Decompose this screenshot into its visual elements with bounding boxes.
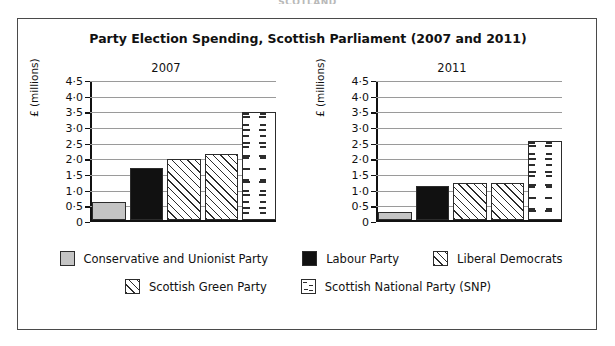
y-axis-label: £ (millions)	[28, 58, 40, 117]
y-tick	[85, 159, 90, 160]
y-tick	[85, 128, 90, 129]
y-tick	[85, 112, 90, 113]
bar-libdem-2007	[167, 159, 201, 221]
legend-item-labour: Labour Party	[302, 251, 399, 266]
y-tick	[85, 191, 90, 192]
legend-swatch-green-icon	[125, 279, 140, 294]
y-tick-label: 4·5	[352, 75, 370, 88]
y-tick	[85, 206, 90, 207]
y-tick-label: 0	[362, 216, 369, 229]
legend-row-2: Scottish Green Party Scottish National P…	[18, 279, 598, 294]
chart-panel-2007: 2007 £ (millions)	[32, 63, 300, 238]
bar-libdem-2011	[453, 183, 487, 221]
y-tick-label: 1·0	[66, 184, 84, 197]
chart-title: Party Election Spending, Scottish Parlia…	[18, 31, 598, 46]
y-tick-label: 1·5	[352, 169, 370, 182]
bar-snp-2007	[242, 112, 276, 220]
y-tick	[371, 144, 376, 145]
bar-conservative-2011	[378, 212, 412, 221]
y-tick	[371, 206, 376, 207]
y-tick	[371, 159, 376, 160]
chart-page: SCOTLAND Party Election Spending, Scotti…	[0, 0, 615, 346]
y-tick-label: 3·0	[66, 122, 84, 135]
y-tick-label: 2·5	[352, 137, 370, 150]
panel-year-label: 2011	[318, 61, 586, 75]
bar-conservative-2007	[92, 202, 126, 221]
bar-group-2011	[378, 81, 562, 220]
y-tick-label: 0·5	[66, 200, 84, 213]
legend-label: Scottish National Party (SNP)	[325, 280, 491, 294]
chart-frame: Party Election Spending, Scottish Parlia…	[17, 18, 597, 330]
bar-group-2007	[92, 81, 276, 220]
y-tick-label: 2·0	[352, 153, 370, 166]
legend-item-snp: Scottish National Party (SNP)	[301, 279, 491, 294]
y-tick-label: 4·5	[66, 75, 84, 88]
y-tick-label: 1·0	[352, 184, 370, 197]
x-axis-line	[90, 220, 276, 222]
legend-row-1: Conservative and Unionist Party Labour P…	[18, 251, 598, 266]
legend-label: Conservative and Unionist Party	[84, 252, 269, 266]
y-tick	[371, 97, 376, 98]
y-tick-label: 2·0	[66, 153, 84, 166]
bar-snp-2011	[528, 141, 562, 221]
legend-label: Labour Party	[326, 252, 399, 266]
y-tick	[371, 128, 376, 129]
y-tick	[371, 191, 376, 192]
y-tick-label: 4·0	[352, 90, 370, 103]
plot-area-2011: 4·5 4·0 3·5 3·0 2·5 2·0 1·5 1·0 0·5 0	[376, 81, 562, 222]
legend-swatch-labour-icon	[302, 251, 317, 266]
legend-swatch-conservative-icon	[60, 251, 75, 266]
y-tick-label: 3·5	[66, 106, 84, 119]
chart-legend: Conservative and Unionist Party Labour P…	[18, 251, 598, 307]
bar-labour-2011	[416, 186, 450, 221]
legend-label: Scottish Green Party	[149, 280, 267, 294]
y-tick	[371, 112, 376, 113]
y-tick	[371, 81, 376, 82]
bar-labour-2007	[130, 168, 164, 221]
y-tick-label: 1·5	[66, 169, 84, 182]
y-tick	[85, 222, 90, 223]
panel-year-label: 2007	[32, 61, 300, 75]
page-header-stub: SCOTLAND	[0, 0, 615, 4]
plot-area-2007: 4·5 4·0 3·5 3·0 2·5 2·0 1·5 1·0 0·5 0	[90, 81, 276, 222]
y-tick	[371, 175, 376, 176]
y-tick	[85, 144, 90, 145]
legend-swatch-snp-icon	[301, 279, 316, 294]
y-tick-label: 3·0	[352, 122, 370, 135]
legend-item-libdem: Liberal Democrats	[433, 251, 562, 266]
legend-swatch-libdem-icon	[433, 251, 448, 266]
y-tick-label: 0·5	[352, 200, 370, 213]
legend-item-green: Scottish Green Party	[125, 279, 267, 294]
y-tick	[371, 222, 376, 223]
y-tick-label: 0	[76, 216, 83, 229]
y-tick-label: 4·0	[66, 90, 84, 103]
y-tick-label: 2·5	[66, 137, 84, 150]
x-axis-line	[376, 220, 562, 222]
y-tick-label: 3·5	[352, 106, 370, 119]
y-tick	[85, 97, 90, 98]
legend-item-conservative: Conservative and Unionist Party	[60, 251, 269, 266]
y-tick	[85, 81, 90, 82]
y-axis-label: £ (millions)	[314, 58, 326, 117]
y-tick	[85, 175, 90, 176]
bar-green-2007	[205, 154, 239, 220]
chart-panel-2011: 2011 £ (millions)	[318, 63, 586, 238]
legend-label: Liberal Democrats	[457, 252, 562, 266]
bar-green-2011	[491, 183, 525, 220]
